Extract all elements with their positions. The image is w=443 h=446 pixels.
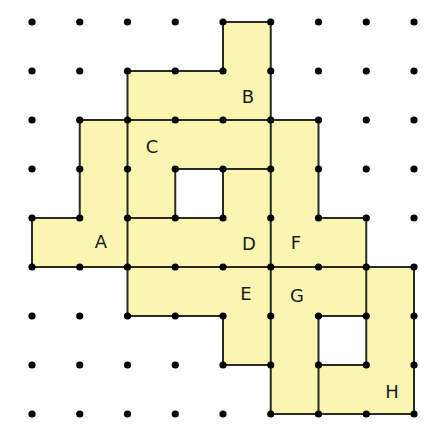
grid-dot [267, 410, 274, 417]
grid-dot [315, 165, 322, 172]
region-cell-h [366, 316, 414, 366]
grid-dot [410, 18, 417, 25]
grid-dot [76, 361, 83, 368]
grid-dot [219, 410, 226, 417]
grid-dot [219, 312, 226, 319]
grid-dot [410, 165, 417, 172]
region-cell-a [80, 120, 128, 170]
grid-dot [28, 361, 35, 368]
region-cell-d [223, 169, 271, 219]
grid-dot [124, 67, 131, 74]
region-cell-h [366, 267, 414, 317]
grid-dot [28, 263, 35, 270]
region-label-h: H [385, 381, 399, 402]
grid-dot [219, 361, 226, 368]
grid-dot [76, 312, 83, 319]
region-label-a: A [95, 231, 108, 252]
grid-dot [28, 67, 35, 74]
grid-dot [363, 67, 370, 74]
region-cell-e [223, 316, 271, 366]
grid-dot [76, 165, 83, 172]
grid-dot [219, 116, 226, 123]
region-cell-a [32, 218, 80, 268]
region-cell-h [319, 365, 367, 415]
grid-dot [172, 410, 179, 417]
region-cell-e [128, 267, 176, 317]
grid-dot [219, 165, 226, 172]
grid-dot [363, 361, 370, 368]
dot-grid-diagram: A B C D E F G H [0, 0, 443, 446]
grid-dot [219, 263, 226, 270]
region-cell-b [128, 71, 176, 121]
grid-dot [28, 312, 35, 319]
region-cell-g [271, 365, 319, 415]
region-label-f: F [291, 232, 301, 253]
region-cell-f [319, 218, 367, 268]
region-cell-c [128, 169, 176, 219]
grid-dot [124, 214, 131, 221]
grid-dot [363, 410, 370, 417]
grid-dot [267, 67, 274, 74]
region-cell-c [175, 120, 223, 170]
grid-dot [267, 18, 274, 25]
region-cell-g [319, 267, 367, 317]
grid-dot [315, 312, 322, 319]
grid-dot [410, 116, 417, 123]
grid-dot [172, 361, 179, 368]
region-cell-b [175, 71, 223, 121]
grid-dot [315, 67, 322, 74]
region-cell-f [271, 169, 319, 219]
region-cell-e [175, 267, 223, 317]
region-label-e: E [240, 283, 251, 304]
grid-dot [219, 18, 226, 25]
grid-dot [76, 116, 83, 123]
grid-dot [172, 214, 179, 221]
grid-dot [124, 410, 131, 417]
region-label-b: B [242, 86, 254, 107]
grid-dot [219, 67, 226, 74]
grid-dot [410, 214, 417, 221]
region-cell-d [175, 218, 223, 268]
region-label-c: C [146, 136, 159, 157]
grid-dot [315, 214, 322, 221]
region-cell-g [271, 316, 319, 366]
grid-dot [315, 361, 322, 368]
grid-dot [267, 361, 274, 368]
grid-dot [28, 18, 35, 25]
grid-dot [219, 214, 226, 221]
region-label-g: G [290, 285, 304, 306]
grid-dot [28, 116, 35, 123]
grid-dot [124, 312, 131, 319]
grid-dot [267, 116, 274, 123]
grid-dot [363, 312, 370, 319]
grid-dot [28, 165, 35, 172]
grid-dot [172, 263, 179, 270]
grid-dot [124, 18, 131, 25]
grid-dot [172, 18, 179, 25]
region-cell-d [128, 218, 176, 268]
grid-dot [28, 410, 35, 417]
grid-dot [124, 263, 131, 270]
grid-dot [28, 214, 35, 221]
grid-dot [124, 165, 131, 172]
grid-dot [124, 116, 131, 123]
grid-dot [363, 116, 370, 123]
grid-dot [410, 67, 417, 74]
grid-dot [172, 312, 179, 319]
region-cell-c [223, 120, 271, 170]
grid-dot [76, 214, 83, 221]
grid-dot [410, 361, 417, 368]
grid-dot [410, 312, 417, 319]
grid-dot [410, 410, 417, 417]
grid-dot [267, 214, 274, 221]
grid-dot [315, 263, 322, 270]
grid-dot [172, 165, 179, 172]
grid-dot [76, 263, 83, 270]
region-cell-a [80, 169, 128, 219]
grid-dot [363, 263, 370, 270]
grid-dot [267, 263, 274, 270]
grid-dot [315, 116, 322, 123]
grid-dot [363, 214, 370, 221]
region-cell-f [271, 120, 319, 170]
region-cell-b [223, 22, 271, 72]
